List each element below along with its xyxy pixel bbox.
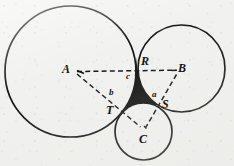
label-center-b: B: [178, 62, 186, 74]
label-center-c: C: [139, 133, 147, 145]
label-tangent-r: R: [141, 55, 149, 67]
label-tangent-t: T: [106, 104, 113, 116]
label-tangent-s: S: [162, 98, 169, 110]
label-side-c: c: [126, 72, 130, 81]
label-center-a: A: [62, 63, 70, 75]
label-side-b: b: [109, 88, 114, 97]
figure-canvas: [0, 0, 234, 166]
label-side-a: a: [152, 90, 157, 99]
geometry-figure: A B C R S T a b c: [0, 0, 234, 166]
